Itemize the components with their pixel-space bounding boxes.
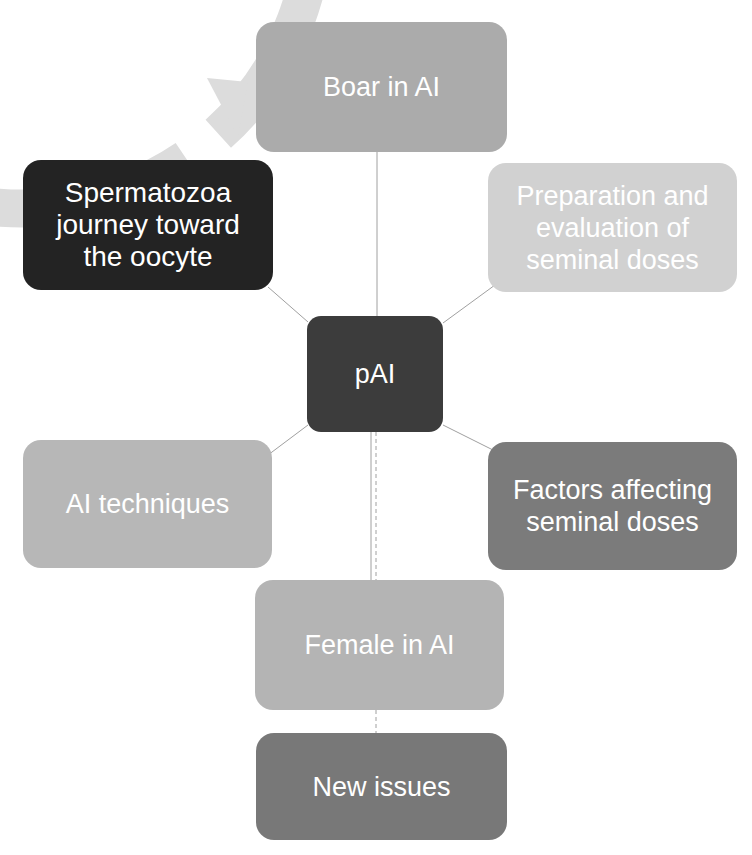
node-label: Preparation and evaluation of seminal do… [516, 180, 708, 276]
connector-techniques [268, 425, 308, 455]
node-label: New issues [312, 771, 450, 803]
node-label: Female in AI [304, 629, 454, 661]
node-label: AI techniques [66, 488, 230, 520]
node-preparation-evaluation: Preparation and evaluation of seminal do… [488, 163, 737, 292]
center-label: pAI [355, 358, 396, 390]
node-new-issues: New issues [256, 733, 507, 840]
node-label: Spermatozoa journey toward the oocyte [56, 177, 240, 273]
node-female-in-ai: Female in AI [255, 580, 504, 710]
connector-factors [443, 425, 497, 452]
node-label: Boar in AI [323, 71, 440, 103]
connector-preparation [443, 285, 495, 323]
connector-spermatozoa [268, 287, 308, 322]
node-factors-affecting: Factors affecting seminal doses [488, 442, 737, 570]
node-label: Factors affecting seminal doses [513, 474, 712, 538]
node-spermatozoa-journey: Spermatozoa journey toward the oocyte [23, 160, 273, 290]
node-boar-in-ai: Boar in AI [256, 22, 507, 152]
center-node-pai: pAI [307, 316, 443, 432]
node-ai-techniques: AI techniques [23, 440, 272, 568]
